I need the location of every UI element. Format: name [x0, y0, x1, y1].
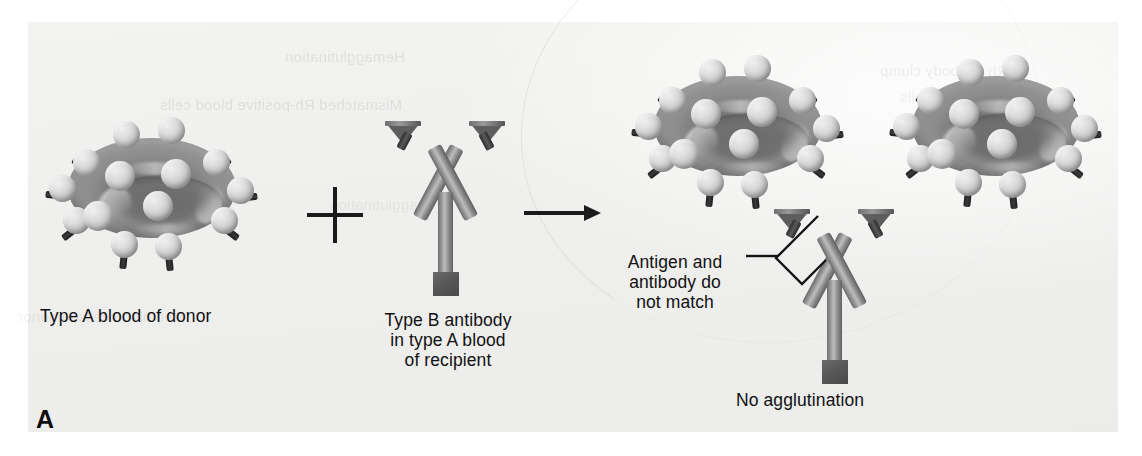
ghost-text-line-2: Mismatched Rh-positive blood cells: [160, 96, 402, 113]
red-blood-cell-result-1: [640, 58, 836, 194]
antigen-sphere: [161, 159, 191, 189]
panel-letter: A: [36, 405, 54, 434]
antigen-sphere: [955, 169, 982, 196]
antigen-sphere: [211, 207, 238, 234]
antigen-sphere: [203, 149, 230, 176]
antigen-sphere: [143, 191, 173, 221]
antigen-sphere: [744, 55, 771, 82]
antigen-sphere: [49, 175, 76, 202]
antibody-binding-site-lip: [385, 121, 421, 126]
antigen-sphere: [659, 87, 686, 114]
antigen-sphere: [927, 139, 957, 169]
donor-cell-label: Type A blood of donor: [40, 306, 211, 326]
antigen-sphere: [741, 171, 768, 198]
antigen-sphere: [893, 113, 920, 140]
antigen-sphere: [73, 149, 100, 176]
antigen-sphere: [111, 231, 138, 258]
ghost-text-line-1: Hemagglutination: [285, 48, 405, 65]
antigen-sphere: [729, 129, 759, 159]
antigen-sphere: [1005, 97, 1035, 127]
antigen-sphere: [158, 117, 185, 144]
antibody-type-b: [385, 120, 505, 300]
blood-compatibility-figure: Hemagglutination Mismatched Rh-positive …: [0, 0, 1142, 456]
antigen-sphere: [813, 115, 840, 142]
no-match-label: Antigen and antibody do not match: [600, 252, 750, 312]
antigen-sphere: [691, 99, 721, 129]
antigen-sphere: [83, 201, 113, 231]
antigen-sphere: [227, 177, 254, 204]
antigen-sphere: [949, 99, 979, 129]
plus-bar-vertical: [333, 187, 337, 243]
antigen-sphere: [797, 145, 824, 172]
antigen-sphere: [1071, 115, 1098, 142]
antibody-stem: [438, 192, 453, 276]
arrow-shaft: [524, 211, 588, 215]
antigen-sphere: [917, 87, 944, 114]
antigen-sphere: [669, 139, 699, 169]
red-blood-cell-type-a: [54, 120, 250, 256]
antigen-sphere: [957, 59, 984, 86]
antigen-sphere: [1055, 145, 1082, 172]
antigen-sphere: [697, 169, 724, 196]
antigen-sphere: [699, 59, 726, 86]
antigen-sphere: [1002, 55, 1029, 82]
antigen-sphere: [155, 233, 182, 260]
antibody-base: [433, 272, 459, 296]
antigen-sphere: [789, 87, 816, 114]
outcome-label: No agglutination: [736, 390, 864, 410]
antigen-sphere: [113, 121, 140, 148]
antibody-binding-site-lip: [469, 121, 505, 126]
antigen-sphere: [747, 97, 777, 127]
bracket-path: [776, 216, 826, 284]
antibody-binding-site-lip: [858, 209, 894, 214]
antigen-sphere: [987, 129, 1017, 159]
antigen-sphere: [105, 161, 135, 191]
antibody-label: Type B antibody in type A blood of recip…: [335, 310, 561, 370]
antigen-sphere: [999, 171, 1026, 198]
arrow-head: [584, 205, 601, 221]
antibody-base: [822, 360, 848, 384]
antigen-sphere: [1047, 87, 1074, 114]
antigen-sphere: [635, 113, 662, 140]
red-blood-cell-result-2: [898, 58, 1094, 194]
